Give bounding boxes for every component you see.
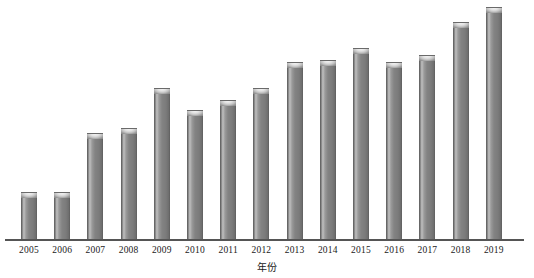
bar-cap-2018: [453, 22, 469, 28]
bar-2008: [121, 128, 137, 240]
bar-cap-2015: [353, 48, 369, 54]
x-tick-2019: 2019: [474, 245, 514, 255]
bar-cap-2005: [21, 192, 37, 198]
bar-2011: [220, 100, 236, 240]
bar-2019: [486, 7, 502, 240]
bar-cap-2012: [253, 88, 269, 94]
bar-2017: [419, 55, 435, 240]
bar-2007: [87, 133, 103, 240]
bar-cap-2010: [187, 110, 203, 116]
bar-cap-2013: [287, 62, 303, 68]
bar-2013: [287, 62, 303, 240]
bar-cap-2017: [419, 55, 435, 61]
plot-area: [0, 0, 534, 240]
bar-cap-2019: [486, 7, 502, 13]
x-axis-title: 年份: [0, 259, 534, 274]
bar-2012: [253, 88, 269, 240]
bar-cap-2011: [220, 100, 236, 106]
bar-2005: [21, 192, 37, 240]
bar-cap-2016: [386, 62, 402, 68]
bar-2010: [187, 110, 203, 240]
bar-2015: [353, 48, 369, 240]
bar-cap-2007: [87, 133, 103, 139]
x-axis-line: [5, 239, 524, 241]
bar-2009: [154, 88, 170, 240]
bar-cap-2014: [320, 60, 336, 66]
bar-cap-2008: [121, 128, 137, 134]
bar-2016: [386, 62, 402, 240]
bar-cap-2009: [154, 88, 170, 94]
bar-cap-2006: [54, 192, 70, 198]
bar-2006: [54, 192, 70, 240]
bar-2014: [320, 60, 336, 240]
bar-2018: [453, 22, 469, 240]
bar-chart: 2005200620072008200920102011201220132014…: [0, 0, 534, 278]
